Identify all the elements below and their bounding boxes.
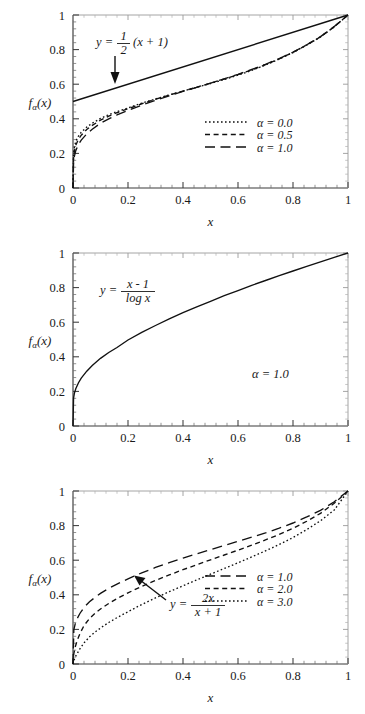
y-tick-label: 0	[59, 658, 65, 672]
annotation-lhs: y =	[94, 35, 113, 49]
annotation-numerator: x - 1	[126, 277, 149, 291]
y-tick-label: 0	[59, 420, 65, 434]
y-tick-label: 0.8	[49, 281, 65, 295]
y-axis-label: fα(x)	[29, 333, 52, 351]
arrow-shaft	[140, 580, 166, 600]
x-tick-label: 0.6	[230, 669, 246, 683]
annotation-denominator: x + 1	[194, 605, 221, 619]
x-tick-label: 0.2	[120, 669, 136, 683]
x-tick-label: 1	[345, 431, 351, 445]
annotation-denominator: log x	[126, 291, 151, 305]
x-tick-label: 0	[70, 193, 76, 207]
axis-frame-main	[73, 15, 348, 188]
y-tick-label: 1	[59, 9, 65, 23]
plot-svg-3: 00.20.40.60.8100.20.40.60.81fα(x)xy =2xx…	[0, 476, 365, 714]
plot-panel-2: 00.20.40.60.8100.20.40.60.81fα(x)xy =x -…	[0, 238, 365, 476]
plot-panel-3: 00.20.40.60.8100.20.40.60.81fα(x)xy =2xx…	[0, 476, 365, 714]
y-axis-label: fα(x)	[29, 95, 52, 113]
y-tick-label: 0.2	[49, 623, 65, 637]
legend: α = 1.0α = 2.0α = 3.0	[205, 570, 292, 609]
y-tick-label: 1	[59, 485, 65, 499]
x-tick-label: 0	[70, 431, 76, 445]
y-tick-label: 0.2	[49, 147, 65, 161]
y-tick-label: 1	[59, 247, 65, 261]
x-tick-label: 0.8	[285, 193, 301, 207]
y-tick-label: 0.6	[49, 316, 65, 330]
curve--1.0	[73, 15, 348, 188]
arrow-head	[134, 576, 146, 586]
annotation-formula: y =12(x + 1)	[94, 29, 168, 57]
arrow-head	[111, 72, 120, 84]
y-tick-label: 0.6	[49, 78, 65, 92]
x-tick-label: 0	[70, 669, 76, 683]
plot-svg-2: 00.20.40.60.8100.20.40.60.81fα(x)xy =x -…	[0, 238, 365, 476]
axis-frame-soft	[73, 15, 348, 188]
y-tick-label: 0.2	[49, 385, 65, 399]
axis-frame-main	[73, 253, 348, 426]
x-tick-label: 1	[345, 669, 351, 683]
y-tick-label: 0.4	[49, 350, 65, 364]
annotation-formula: y =2xx + 1	[168, 591, 225, 619]
plot-panel-1: 00.20.40.60.8100.20.40.60.81fα(x)xy =12(…	[0, 0, 365, 238]
annotation-formula: y =x - 1log x	[98, 277, 155, 305]
legend: α = 0.0α = 0.5α = 1.0	[205, 116, 292, 155]
annotation-numerator: 2x	[202, 591, 214, 605]
plot-svg-1: 00.20.40.60.8100.20.40.60.81fα(x)xy =12(…	[0, 0, 365, 238]
curve--0.5	[73, 15, 348, 188]
y-tick-label: 0	[59, 182, 65, 196]
x-tick-label: 0.8	[285, 669, 301, 683]
alpha-value-label: α = 1.0	[252, 367, 290, 381]
curve--1.0	[73, 491, 348, 664]
annotation-lhs: y =	[98, 283, 117, 297]
axis-frame-soft	[73, 253, 348, 426]
y-tick-label: 0.8	[49, 519, 65, 533]
x-tick-label: 0.6	[230, 431, 246, 445]
x-tick-label: 0.2	[120, 431, 136, 445]
x-axis-label: x	[207, 690, 214, 705]
x-tick-label: 1	[345, 193, 351, 207]
figure-three-panel-plot: 00.20.40.60.8100.20.40.60.81fα(x)xy =12(…	[0, 0, 365, 714]
annotation-arrow	[111, 56, 120, 84]
y-tick-label: 0.8	[49, 43, 65, 57]
curve--0.0	[73, 15, 348, 188]
annotation-lhs: y =	[168, 597, 187, 611]
annotation-tail: (x + 1)	[133, 35, 168, 49]
annotation-numerator: 1	[120, 29, 126, 43]
y-tick-label: 0.4	[49, 588, 65, 602]
legend-label: α = 1.0	[257, 141, 292, 155]
x-tick-label: 0.4	[175, 193, 191, 207]
x-tick-label: 0.4	[175, 669, 191, 683]
x-tick-label: 0.6	[230, 193, 246, 207]
legend-label: α = 3.0	[257, 595, 292, 609]
x-tick-label: 0.4	[175, 431, 191, 445]
x-tick-label: 0.2	[120, 193, 136, 207]
x-axis-label: x	[207, 214, 214, 229]
y-axis-label: fα(x)	[29, 571, 52, 589]
curve--x-1-log-x	[73, 253, 348, 426]
x-tick-label: 0.8	[285, 431, 301, 445]
y-tick-label: 0.6	[49, 554, 65, 568]
x-axis-label: x	[207, 452, 214, 467]
annotation-denominator: 2	[120, 43, 126, 57]
curve-y-x-1-2	[73, 15, 348, 102]
y-tick-label: 0.4	[49, 112, 65, 126]
